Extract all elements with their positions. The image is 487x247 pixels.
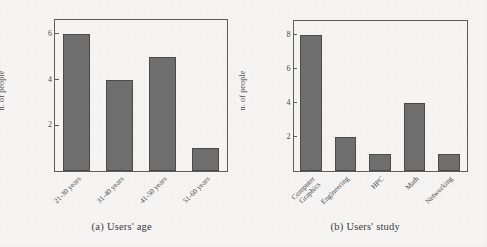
bar-slot [397,21,432,171]
y-tick-label: 4 [48,76,55,84]
bar-slot [363,21,398,171]
y-tick-4: 4 [287,99,294,107]
x-axis-users-age: 21-30 years31-40 years41-50 years51-60 y… [55,171,227,217]
x-tick-slot: Engineering [328,171,363,217]
y-tick-2: 2 [48,121,55,129]
figure-container: 246 21-30 years31-40 years41-50 years51-… [0,0,487,247]
x-tick-label-31-40-years: 31-40 years [95,175,125,205]
bar-math [404,103,425,171]
plot-area-users-age: 246 21-30 years31-40 years41-50 years51-… [54,19,228,172]
x-tick-slot: 51-60 years [184,171,227,217]
y-tick-6: 6 [287,65,294,73]
caption-tag-a: (a) [92,221,104,232]
x-tick-label-hpc: HPC [370,175,386,191]
bar-slot [432,21,467,171]
y-tick-4: 4 [48,76,55,84]
bar-slot [184,20,227,171]
bar-slot [55,20,98,171]
bar-41-50-years [149,57,176,171]
x-tick-slot: 31-40 years [98,171,141,217]
bar-computer-graphics [300,35,321,171]
y-tick-label: 8 [287,31,294,39]
y-tick-6: 6 [48,30,55,38]
y-tick-mark [55,125,59,126]
caption-tag-b: (b) [331,221,344,232]
y-axis-title-users-study: n. of people [238,71,247,111]
y-tick-mark [55,33,59,34]
bar-slot [294,21,329,171]
y-tick-mark [294,136,298,137]
subfigure-users-study: 2468 Computer GraphicsEngineeringHPCMath… [244,0,487,247]
y-tick-label: 6 [287,65,294,73]
x-tick-label-math: Math [404,175,421,192]
y-tick-mark [294,34,298,35]
caption-text-b: Users' study [346,221,400,232]
x-tick-slot: 41-50 years [141,171,184,217]
x-tick-mark [415,168,416,172]
y-tick-2: 2 [287,133,294,141]
x-axis-users-study: Computer GraphicsEngineeringHPCMathNetwo… [294,171,467,217]
x-tick-mark [380,168,381,172]
y-tick-mark [294,102,298,103]
y-tick-mark [294,68,298,69]
caption-users-age: (a)Users' age [0,221,244,232]
y-tick-label: 2 [287,133,294,141]
x-tick-mark [163,168,164,172]
x-tick-slot: Networking [432,171,467,217]
x-tick-slot: 21-30 years [55,171,98,217]
x-tick-mark [345,168,346,172]
x-tick-slot: HPC [363,171,398,217]
bar-engineering [335,137,356,171]
x-tick-mark [206,168,207,172]
bar-slot [98,20,141,171]
bar-group-users-age [55,20,227,171]
bar-31-40-years [106,80,133,172]
x-tick-label-computer-graphics: Computer Graphics [290,175,323,208]
y-tick-label: 2 [48,121,55,129]
bar-slot [141,20,184,171]
x-tick-mark [120,168,121,172]
bar-slot [328,21,363,171]
x-tick-label-21-30-years: 21-30 years [52,175,82,205]
bar-group-users-study [294,21,467,171]
x-tick-label-41-50-years: 41-50 years [138,175,168,205]
y-axis-title-users-age: n. of people [0,71,6,111]
plot-area-users-study: 2468 Computer GraphicsEngineeringHPCMath… [293,20,468,172]
subfigure-users-age: 246 21-30 years31-40 years41-50 years51-… [0,0,244,247]
x-tick-mark [449,168,450,172]
y-tick-label: 6 [48,30,55,38]
caption-users-study: (b)Users' study [244,221,487,232]
y-tick-8: 8 [287,31,294,39]
y-tick-mark [55,79,59,80]
bar-21-30-years [63,34,90,171]
x-tick-label-51-60-years: 51-60 years [181,175,211,205]
x-tick-mark [77,168,78,172]
caption-text-a: Users' age [107,221,152,232]
y-tick-label: 4 [287,99,294,107]
x-tick-mark [311,168,312,172]
